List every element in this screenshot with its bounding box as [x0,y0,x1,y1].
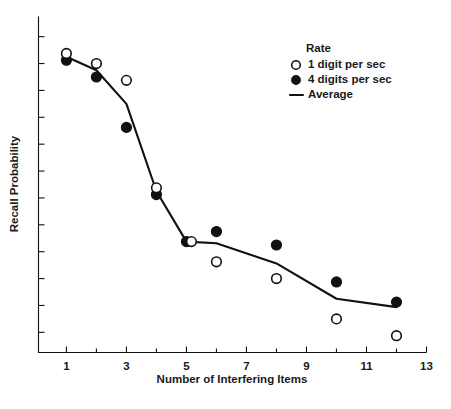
data-point-filled [271,240,281,250]
x-axis-title: Number of Interfering Items [157,373,308,385]
data-point-open [272,274,282,284]
data-point-filled [331,277,341,287]
legend-marker-open-circle [292,61,301,70]
x-tick-label: 7 [243,360,249,372]
data-point-filled [121,122,131,132]
x-tick-label: 1 [63,360,70,372]
data-point-open [62,49,72,59]
legend-marker-filled-circle [292,76,301,85]
y-axis-ticks [39,37,45,333]
data-point-filled [211,227,221,237]
legend-label-1-digit-per-sec: 1 digit per sec [308,58,386,70]
x-axis-ticks [66,347,426,353]
legend: Rate 1 digit per sec 4 digits per sec Av… [290,42,392,100]
data-point-open [332,314,342,324]
data-point-filled [91,72,101,82]
data-point-open [92,59,102,69]
data-point-open [212,257,222,267]
recall-probability-chart: 135791113 Number of Interfering Items Re… [0,0,451,409]
x-tick-label: 5 [183,360,190,372]
legend-title: Rate [306,42,331,54]
data-point-open [187,237,197,247]
plot-canvas: 135791113 Number of Interfering Items Re… [0,0,451,409]
x-axis-tick-labels: 135791113 [63,360,433,372]
legend-label-4-digits-per-sec: 4 digits per sec [308,73,392,85]
legend-label-average: Average [308,88,353,100]
data-point-filled [391,297,401,307]
y-axis-title: Recall Probability [8,135,20,232]
x-tick-label: 11 [360,360,373,372]
data-point-open [122,76,132,86]
data-point-open [392,331,402,341]
data-point-open [152,183,162,193]
x-tick-label: 13 [420,360,433,372]
x-tick-label: 9 [303,360,309,372]
x-tick-label: 3 [123,360,129,372]
